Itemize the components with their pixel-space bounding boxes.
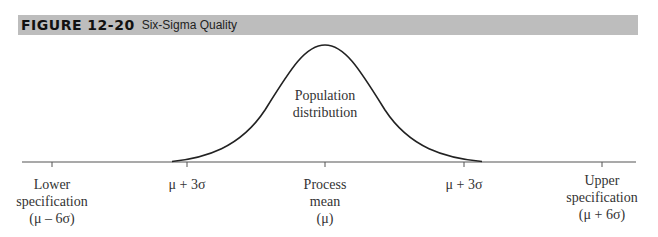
curve-label-line1: Population — [285, 87, 365, 104]
label-line: Lower — [2, 176, 102, 193]
label-plus-3sigma: μ + 3σ — [424, 176, 504, 193]
label-minus-3sigma: μ + 3σ — [147, 176, 227, 193]
label-line: (μ) — [285, 210, 365, 227]
label-line: specification — [2, 193, 102, 210]
label-line: μ + 3σ — [424, 176, 504, 193]
label-line: (μ + 6σ) — [552, 206, 652, 223]
curve-label-line2: distribution — [285, 104, 365, 121]
label-line: mean — [285, 193, 365, 210]
label-line: specification — [552, 189, 652, 206]
label-line: (μ – 6σ) — [2, 210, 102, 227]
label-upper-spec: Upper specification (μ + 6σ) — [552, 172, 652, 223]
population-distribution-label: Population distribution — [285, 87, 365, 121]
label-line: Process — [285, 176, 365, 193]
label-line: Upper — [552, 172, 652, 189]
label-process-mean: Process mean (μ) — [285, 176, 365, 227]
label-line: μ + 3σ — [147, 176, 227, 193]
label-lower-spec: Lower specification (μ – 6σ) — [2, 176, 102, 227]
